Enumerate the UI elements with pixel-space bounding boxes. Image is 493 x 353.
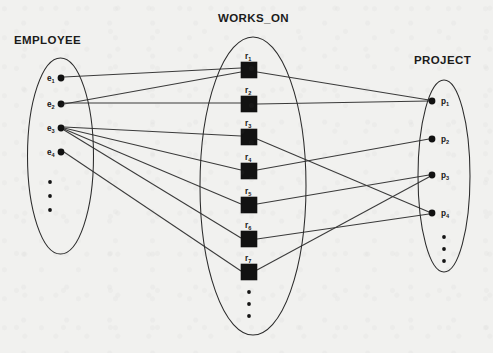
set-ellipse-employee [28, 58, 94, 254]
node-label-p4: p4 [441, 209, 450, 219]
nodes-layer: e1e2e3e4r1r2r3r4r5r6r7p1p2p3p4 [47, 52, 450, 318]
node-p4[interactable] [429, 210, 436, 217]
node-label-p3: p3 [441, 171, 449, 181]
diagram-canvas: e1e2e3e4r1r2r3r4r5r6r7p1p2p3p4 EMPLOYEEW… [0, 0, 493, 353]
edge-r3-p4 [257, 139, 429, 212]
edge-e3-r6 [64, 130, 241, 238]
node-r6[interactable] [241, 231, 257, 247]
set-title-employee: EMPLOYEE [14, 34, 81, 46]
node-label-p1: p1 [441, 97, 449, 107]
node-label-r2: r2 [245, 86, 251, 96]
node-e1[interactable] [58, 75, 65, 82]
node-label-p2: p2 [441, 135, 449, 145]
node-r2[interactable] [241, 96, 257, 112]
node-label-r6: r6 [245, 221, 251, 231]
node-label-r1: r1 [245, 52, 251, 62]
continuation-dot-employee-3 [48, 208, 52, 212]
node-label-e2: e2 [47, 100, 55, 110]
continuation-dot-project-2 [442, 247, 446, 251]
edge-r6-p4 [257, 214, 429, 239]
node-e3[interactable] [58, 125, 65, 132]
set-title-project: PROJECT [414, 54, 471, 66]
node-label-e4: e4 [47, 148, 56, 158]
titles-layer: EMPLOYEEWORKS_ONPROJECT [14, 12, 471, 66]
node-label-r3: r3 [245, 119, 251, 129]
node-label-e3: e3 [47, 124, 55, 134]
node-label-e1: e1 [47, 74, 55, 84]
node-r7[interactable] [241, 264, 257, 280]
set-title-works_on: WORKS_ON [218, 12, 289, 24]
node-e2[interactable] [58, 101, 65, 108]
node-label-r7: r7 [245, 254, 251, 264]
node-e4[interactable] [58, 149, 65, 156]
node-r1[interactable] [241, 62, 257, 78]
node-label-r5: r5 [245, 187, 251, 197]
continuation-dot-employee-1 [48, 180, 52, 184]
continuation-dot-employee-2 [48, 194, 52, 198]
node-p2[interactable] [429, 136, 436, 143]
edge-e3-r5 [64, 129, 241, 204]
node-label-r4: r4 [245, 153, 252, 163]
edge-e4-r7 [64, 152, 241, 271]
set-ellipse-works_on [200, 37, 306, 335]
continuation-dot-project-1 [442, 235, 446, 239]
node-r5[interactable] [241, 197, 257, 213]
edge-r5-p3 [257, 175, 429, 204]
edge-r7-p3 [257, 177, 429, 270]
continuation-dot-works_on-1 [247, 290, 251, 294]
node-r4[interactable] [241, 163, 257, 179]
node-p3[interactable] [429, 172, 436, 179]
edge-e2-r1 [64, 72, 241, 104]
edge-r4-p2 [257, 139, 429, 170]
edge-r2-p1 [257, 101, 429, 104]
edge-e1-r1 [64, 68, 241, 77]
er-instance-diagram: e1e2e3e4r1r2r3r4r5r6r7p1p2p3p4 EMPLOYEEW… [0, 0, 493, 353]
edge-r1-p1 [257, 72, 429, 100]
continuation-dot-works_on-3 [247, 314, 251, 318]
node-p1[interactable] [429, 98, 436, 105]
continuation-dot-works_on-2 [247, 302, 251, 306]
continuation-dot-project-3 [442, 259, 446, 263]
node-r3[interactable] [241, 129, 257, 145]
